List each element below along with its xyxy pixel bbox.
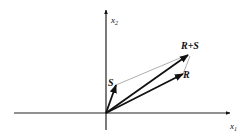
y-axis-label: x2 (110, 15, 118, 26)
x-axis-label: x1 (229, 121, 237, 132)
vector-r (106, 74, 183, 113)
vector-addition-diagram: x2 x1 S R R+S (0, 0, 248, 135)
label-s: S (108, 77, 114, 88)
label-r-plus-s: R+S (180, 40, 199, 51)
label-r: R (182, 69, 190, 80)
